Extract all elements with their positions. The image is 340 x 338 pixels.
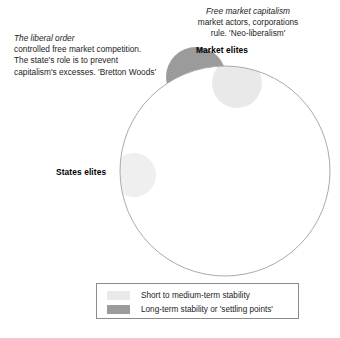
legend-label-long-term: Long-term stability or 'settling points' xyxy=(141,305,273,314)
node-label-states-elites: States elites xyxy=(56,167,106,177)
legend-swatch-long-term xyxy=(107,305,130,314)
annotation-free-market-capitalism: Free market capitalism market actors, co… xyxy=(168,6,328,40)
annotation-liberal-order-line-3: capitalism's excesses. 'Bretton Woods' xyxy=(14,67,156,78)
states-elites-blob xyxy=(112,153,156,197)
legend-label-short-term: Short to medium-term stability xyxy=(141,291,250,300)
annotation-liberal-order-line-1: controlled free market competition. xyxy=(14,44,156,55)
legend-item-short-term: Short to medium-term stability xyxy=(107,288,298,302)
annotation-free-market-line-2: rule. 'Neo-liberalism' xyxy=(168,28,328,39)
legend-swatch-short-term xyxy=(107,291,130,300)
legend-item-long-term: Long-term stability or 'settling points' xyxy=(107,302,298,316)
annotation-free-market-line-1: market actors, corporations xyxy=(168,17,328,28)
diagram-canvas: The liberal order controlled free market… xyxy=(0,0,340,338)
annotation-liberal-order-lead: The liberal order xyxy=(14,33,156,44)
legend: Short to medium-term stability Long-term… xyxy=(96,283,299,319)
annotation-free-market-lead: Free market capitalism xyxy=(168,6,328,17)
node-label-market-elites: Market elites xyxy=(196,45,248,55)
annotation-liberal-order: The liberal order controlled free market… xyxy=(14,33,156,78)
annotation-liberal-order-line-2: The state's role is to prevent xyxy=(14,55,156,66)
